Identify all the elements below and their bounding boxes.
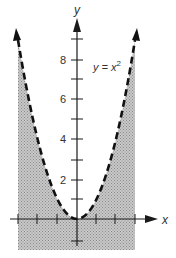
parabola-graph: x y 8 6 4 2 y = x2 [0, 0, 176, 258]
y-tick-label-4: 4 [60, 133, 66, 145]
equation-exponent: 2 [117, 59, 122, 68]
y-tick-label-8: 8 [60, 54, 66, 66]
y-axis-arrow-icon [73, 18, 81, 32]
equation-label: y = x2 [92, 59, 122, 73]
y-tick-label-2: 2 [60, 174, 66, 186]
x-axis-arrow-icon [145, 215, 158, 223]
equation-lhs: y = x [92, 61, 117, 73]
x-axis-label: x [161, 213, 169, 227]
y-tick-label-6: 6 [60, 93, 66, 105]
curve-right-arrow-icon [132, 28, 140, 41]
curve-left-arrow-icon [13, 28, 21, 41]
y-axis-label: y [73, 3, 81, 17]
